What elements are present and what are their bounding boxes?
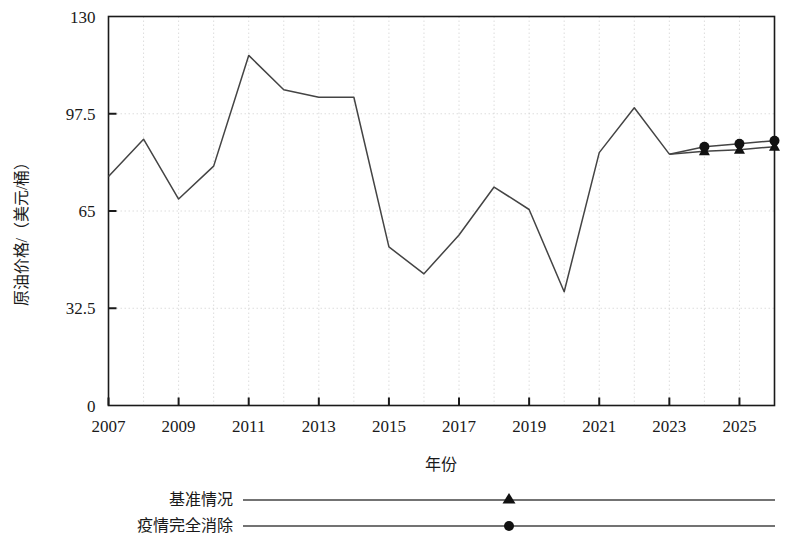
circle-marker-icon bbox=[504, 521, 514, 531]
crude-oil-price-line-chart: 032.56597.5130 2007200920112013201520172… bbox=[0, 0, 793, 559]
y-axis-tick-labels: 032.56597.5130 bbox=[66, 8, 96, 416]
chart-legend: 基准情况 疫情完全消除 bbox=[137, 491, 775, 534]
circle-marker-icon bbox=[770, 136, 780, 146]
triangle-marker-icon bbox=[503, 493, 516, 504]
y-tick-label: 130 bbox=[70, 8, 96, 27]
x-tick-label: 2007 bbox=[92, 417, 127, 436]
x-tick-label: 2009 bbox=[162, 417, 196, 436]
series-pandemic-eliminated-forecast bbox=[669, 136, 779, 154]
x-tick-label: 2019 bbox=[512, 417, 546, 436]
x-tick-label: 2011 bbox=[232, 417, 265, 436]
legend-label-baseline: 基准情况 bbox=[169, 491, 233, 508]
series-baseline-forecast bbox=[669, 141, 780, 155]
y-tick-label: 65 bbox=[79, 202, 96, 221]
circle-marker-icon bbox=[734, 139, 744, 149]
y-tick-label: 32.5 bbox=[66, 299, 96, 318]
legend-label-pandemic-eliminated: 疫情完全消除 bbox=[137, 517, 233, 534]
chart-figure: 032.56597.5130 2007200920112013201520172… bbox=[0, 0, 793, 559]
x-tick-label: 2017 bbox=[442, 417, 477, 436]
x-axis-title: 年份 bbox=[425, 456, 457, 473]
x-tick-label: 2023 bbox=[652, 417, 686, 436]
x-tick-label: 2025 bbox=[722, 417, 756, 436]
y-axis-ticks bbox=[109, 114, 117, 309]
y-axis-title: 原油价格/（美元/桶） bbox=[13, 154, 30, 307]
y-tick-label: 0 bbox=[87, 397, 96, 416]
y-tick-label: 97.5 bbox=[66, 105, 96, 124]
x-tick-label: 2021 bbox=[582, 417, 616, 436]
x-tick-label: 2013 bbox=[302, 417, 336, 436]
x-axis-tick-labels: 2007200920112013201520172019202120232025 bbox=[92, 417, 757, 436]
x-tick-label: 2015 bbox=[372, 417, 406, 436]
y-gridlines bbox=[109, 17, 775, 309]
circle-marker-icon bbox=[699, 142, 709, 152]
